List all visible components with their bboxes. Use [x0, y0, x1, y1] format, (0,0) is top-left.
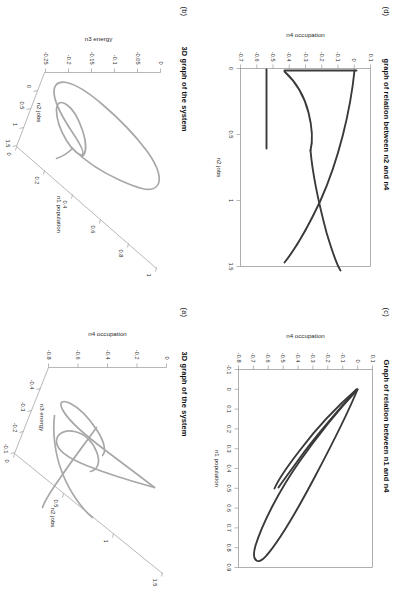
panel-a-vertical-axis-label: n4 occupation: [88, 329, 127, 336]
panel-b-vertical-ticks: 0 -0.05 -0.1 -0.15 -0.2 -0.25 n3 energy: [42, 34, 163, 64]
panel-a: (a) 3D graph of the system: [0, 301, 202, 602]
svg-text:0.1: 0.1: [225, 405, 231, 413]
svg-text:0: 0: [225, 387, 231, 390]
svg-text:1: 1: [102, 539, 108, 542]
panel-a-depthleft-axis-label: n3 energy: [38, 403, 45, 431]
panel-a-curve: [42, 401, 154, 517]
svg-text:-0.4: -0.4: [104, 349, 110, 359]
figure-root: (b) 3D graph of the system: [0, 0, 404, 602]
svg-text:0.5: 0.5: [225, 484, 231, 492]
svg-text:0: 0: [163, 356, 169, 359]
svg-text:-0.8: -0.8: [45, 349, 51, 359]
svg-text:-0.4: -0.4: [295, 352, 301, 362]
svg-text:0.1: 0.1: [367, 53, 373, 61]
panel-d-x-axis-label: n2 jobs: [215, 157, 222, 177]
panel-c: (c) Graph of relation between n1 and n4: [202, 301, 404, 602]
svg-text:1: 1: [145, 273, 151, 276]
panel-b-inner: (b) 3D graph of the system: [0, 0, 202, 301]
svg-text:0.7: 0.7: [225, 524, 231, 532]
svg-text:-0.05: -0.05: [134, 51, 140, 64]
panel-b: (b) 3D graph of the system: [0, 0, 202, 301]
svg-text:1: 1: [227, 198, 233, 201]
svg-text:0: 0: [157, 61, 163, 64]
panel-a-vertical-ticks: 0 -0.2 -0.4 -0.6 -0.8 n4 occupation: [45, 329, 169, 359]
svg-text:0.5: 0.5: [227, 130, 233, 138]
svg-text:-0.2: -0.2: [11, 422, 17, 432]
svg-text:0.8: 0.8: [225, 543, 231, 551]
panel-a-depthright-ticks: 0 0.5 1 1.5 n2 jobs: [3, 459, 157, 586]
svg-text:-0.2: -0.2: [134, 349, 140, 359]
panel-b-depthleft-axis-label: n2 jobs: [35, 102, 42, 122]
svg-text:0.2: 0.2: [33, 176, 39, 184]
svg-text:-0.3: -0.3: [302, 51, 308, 61]
svg-text:0: 0: [354, 359, 360, 362]
svg-text:-0.1: -0.1: [2, 443, 8, 453]
svg-text:0: 0: [3, 459, 9, 462]
panel-d-inner: (d) graph of relation between n2 and n4: [202, 0, 404, 301]
svg-text:0: 0: [25, 84, 31, 87]
panel-b-depthright-axis-label: n1 population: [55, 195, 62, 233]
svg-text:-0.4: -0.4: [286, 51, 292, 61]
panel-d: (d) graph of relation between n2 and n4: [202, 0, 404, 301]
svg-text:-0.1: -0.1: [335, 51, 341, 61]
panel-a-inner: (a) 3D graph of the system: [0, 301, 202, 602]
svg-text:-0.1: -0.1: [339, 352, 345, 362]
svg-text:1.5: 1.5: [151, 578, 157, 586]
svg-text:-0.7: -0.7: [250, 352, 256, 362]
panel-a-axes: [10, 363, 166, 576]
svg-text:0: 0: [5, 152, 11, 155]
svg-text:0.5: 0.5: [18, 101, 24, 109]
panel-d-y-ticks: 0.1 0 -0.1 -0.2 -0.3 -0.4 -0.5 -0.6 -0.7…: [237, 30, 373, 68]
panel-c-y-ticks: 0.1 0 -0.1 -0.2 -0.3 -0.4 -0.5 -0.6 -0.7…: [235, 331, 375, 369]
svg-text:-0.6: -0.6: [253, 51, 259, 61]
svg-text:0.4: 0.4: [225, 464, 231, 472]
svg-text:-0.15: -0.15: [88, 51, 94, 64]
svg-text:0.5: 0.5: [52, 499, 58, 507]
svg-text:-0.25: -0.25: [42, 51, 48, 64]
svg-text:0.9: 0.9: [225, 563, 231, 571]
svg-text:-0.7: -0.7: [237, 51, 243, 61]
panel-a-plot: 0 -0.2 -0.4 -0.6 -0.8 n4 occupation -0.4…: [0, 301, 202, 602]
panel-c-x-ticks: -0.1 0 0.1 0.2 0.3 0.4 0.5 0.6 0.7 0.8 0…: [213, 364, 238, 571]
svg-text:1.5: 1.5: [4, 139, 10, 147]
panel-a-depthleft-ticks: -0.4 -0.3 -0.2 -0.1 n3 energy: [2, 379, 45, 453]
svg-text:-0.2: -0.2: [65, 54, 71, 64]
svg-text:0.6: 0.6: [225, 504, 231, 512]
svg-text:-0.3: -0.3: [19, 401, 25, 411]
svg-text:0.1: 0.1: [369, 354, 375, 362]
svg-text:-0.2: -0.2: [318, 51, 324, 61]
svg-text:-0.5: -0.5: [270, 51, 276, 61]
panel-a-depthright-axis-label: n2 jobs: [49, 507, 56, 527]
svg-text:-0.2: -0.2: [324, 352, 330, 362]
panel-c-inner: (c) Graph of relation between n1 and n4: [202, 301, 404, 602]
svg-text:-0.3: -0.3: [309, 352, 315, 362]
panel-b-curve: [54, 82, 159, 189]
panel-b-vertical-axis-label: n3 energy: [84, 34, 112, 41]
svg-text:0.2: 0.2: [225, 425, 231, 433]
panel-b-axes: [12, 68, 160, 271]
svg-text:0.3: 0.3: [225, 444, 231, 452]
panel-b-depthright-ticks: 0 0.2 0.4 0.6 0.8 1 n1 population: [5, 152, 151, 276]
svg-text:-0.4: -0.4: [28, 379, 34, 389]
panel-d-plot: 0.1 0 -0.1 -0.2 -0.3 -0.4 -0.5 -0.6 -0.7…: [202, 0, 404, 301]
svg-text:1.5: 1.5: [227, 262, 233, 270]
svg-text:0.6: 0.6: [89, 225, 95, 233]
svg-text:-0.6: -0.6: [75, 349, 81, 359]
panel-d-curves: [266, 69, 356, 270]
svg-text:1: 1: [11, 122, 17, 125]
svg-text:-0.5: -0.5: [280, 352, 286, 362]
panel-c-x-axis-label: n1 population: [213, 449, 220, 487]
panel-d-y-axis-label: n4 occupation: [286, 30, 325, 37]
svg-text:0: 0: [351, 58, 357, 61]
svg-text:-0.8: -0.8: [235, 352, 241, 362]
panel-c-y-axis-label: n4 occupation: [286, 331, 325, 338]
panel-b-plot: 0 -0.05 -0.1 -0.15 -0.2 -0.25 n3 energy …: [0, 0, 202, 301]
svg-text:-0.1: -0.1: [111, 54, 117, 64]
panel-c-plot: 0.1 0 -0.1 -0.2 -0.3 -0.4 -0.5 -0.6 -0.7…: [202, 301, 404, 602]
svg-text:-0.6: -0.6: [265, 352, 271, 362]
panel-d-x-ticks: 0 0.5 1 1.5 n2 jobs: [215, 66, 240, 269]
panel-c-curves: [254, 389, 358, 561]
svg-text:-0.1: -0.1: [225, 364, 231, 374]
svg-text:0.8: 0.8: [117, 249, 123, 257]
svg-text:0: 0: [227, 66, 233, 69]
